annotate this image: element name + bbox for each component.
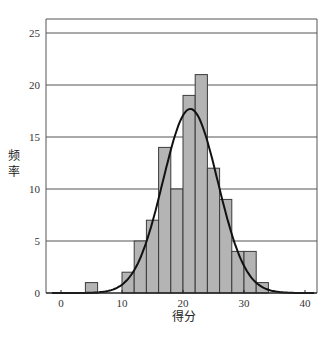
y-tick-label: 15	[29, 131, 41, 143]
y-tick-label: 25	[29, 27, 41, 39]
x-tick-label: 30	[239, 297, 251, 309]
histogram-bar	[195, 75, 207, 293]
histogram-bar	[244, 251, 256, 293]
histogram-bar	[171, 189, 183, 293]
y-axis-label: 频	[8, 149, 20, 163]
y-tick-label: 10	[29, 183, 41, 195]
x-axis-label: 得分	[172, 309, 196, 324]
histogram-bar	[159, 147, 171, 293]
histogram-bar	[232, 251, 244, 293]
x-tick-label: 20	[178, 297, 190, 309]
y-axis-ticks: 0510152025	[29, 27, 41, 299]
histogram-bar	[146, 220, 158, 293]
y-tick-label: 20	[29, 79, 41, 91]
histogram-chart: 0510152025 010203040 频 率 得分	[0, 0, 336, 337]
x-tick-label: 0	[58, 297, 64, 309]
x-tick-label: 40	[300, 297, 312, 309]
y-axis-label-2: 率	[8, 164, 20, 179]
histogram-bar	[85, 283, 97, 293]
histogram-bar	[207, 168, 219, 293]
y-tick-label: 5	[35, 235, 41, 247]
y-tick-label: 0	[35, 287, 41, 299]
x-tick-label: 10	[117, 297, 129, 309]
histogram-bar	[183, 95, 195, 293]
